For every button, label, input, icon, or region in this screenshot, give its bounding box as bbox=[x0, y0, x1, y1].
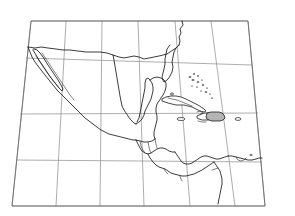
map-canvas bbox=[0, 0, 295, 216]
feature-puerto-rico bbox=[235, 118, 241, 121]
map-figure bbox=[0, 0, 295, 216]
feature-isla-de-la-juventud bbox=[170, 93, 173, 95]
map-background bbox=[0, 0, 295, 216]
feature-jamaica bbox=[177, 118, 185, 121]
feature-lesser-antilles bbox=[249, 154, 252, 156]
feature-trinidad bbox=[249, 154, 252, 156]
feature-dominican-republic-highlight bbox=[206, 112, 225, 121]
